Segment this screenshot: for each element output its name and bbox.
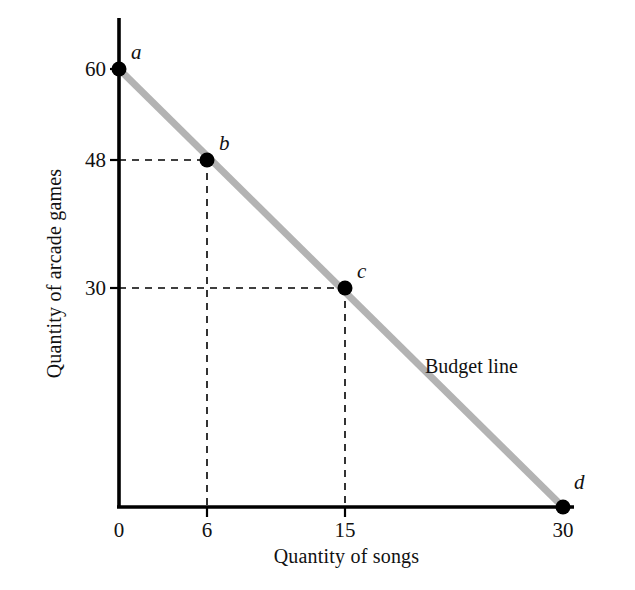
data-point-d[interactable] — [556, 500, 571, 515]
data-point-c[interactable] — [338, 281, 353, 296]
point-label-c: c — [357, 259, 366, 284]
budget-line-chart-figure: Quantity of arcade games Quantity of son… — [0, 0, 635, 590]
x-tick-label-15: 15 — [335, 518, 356, 543]
x-tick-label-6: 6 — [202, 518, 213, 543]
data-point-a[interactable] — [112, 62, 127, 77]
y-tick-label-60: 60 — [62, 57, 106, 82]
data-point-b[interactable] — [200, 153, 215, 168]
x-tick-label-0: 0 — [114, 518, 125, 543]
point-label-d: d — [574, 470, 585, 495]
budget-line-annotation: Budget line — [425, 355, 518, 378]
y-tick-label-30: 30 — [62, 276, 106, 301]
x-tick-label-30: 30 — [553, 518, 574, 543]
x-axis-title: Quantity of songs — [119, 545, 574, 568]
point-label-a: a — [131, 40, 142, 65]
y-tick-label-48: 48 — [62, 148, 106, 173]
point-label-b: b — [219, 131, 230, 156]
